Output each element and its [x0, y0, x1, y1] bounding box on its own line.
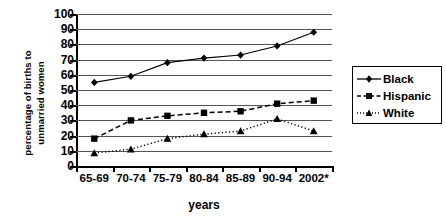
x-axis-tick [332, 166, 334, 172]
series-black [91, 29, 317, 86]
data-point [274, 100, 280, 106]
legend-item-black: Black [356, 70, 439, 87]
data-point [201, 110, 207, 116]
data-point [127, 73, 134, 80]
data-point [310, 127, 318, 134]
x-tick-label: 80-84 [189, 172, 218, 184]
data-point [164, 59, 171, 66]
data-point [127, 145, 135, 152]
x-tick-label: 75-79 [153, 172, 182, 184]
y-tick-label: 100 [40, 9, 74, 19]
y-tick-label: 70 [40, 55, 74, 65]
x-tick-label: 65-69 [80, 172, 109, 184]
y-tick-label: 90 [40, 24, 74, 34]
x-tick-label: 85-89 [226, 172, 255, 184]
data-point [90, 149, 98, 156]
y-tick-label: 60 [40, 70, 74, 80]
legend-key-white-icon [356, 106, 382, 120]
data-point [310, 29, 317, 36]
data-point [91, 79, 98, 86]
data-point [201, 54, 208, 61]
y-tick-label: 20 [40, 131, 74, 141]
chart-legend: Black Hispanic White [352, 66, 442, 124]
y-axis-title-line1: percentage of births to [21, 50, 34, 155]
plot-area [76, 14, 332, 166]
x-axis-tick-labels: 65-6970-7475-7980-8485-8990-942002* [76, 172, 332, 190]
y-tick-label: 0 [40, 161, 74, 171]
y-tick-label: 40 [40, 100, 74, 110]
y-tick-label: 30 [40, 115, 74, 125]
chart-figure: percentage of births to unmarried women … [0, 0, 446, 224]
data-point [91, 135, 97, 141]
x-axis-title: years [76, 198, 332, 212]
data-point [273, 115, 281, 122]
x-tick-label: 90-94 [262, 172, 291, 184]
legend-label-black: Black [383, 73, 414, 85]
data-point [237, 51, 244, 58]
data-point [237, 108, 243, 114]
data-point [311, 97, 317, 103]
data-point [164, 135, 172, 142]
legend-item-white: White [356, 104, 439, 121]
data-point [237, 127, 245, 134]
y-tick-label: 10 [40, 146, 74, 156]
data-point [274, 42, 281, 49]
x-tick-label: 2002* [299, 172, 329, 184]
y-axis-tick-labels: 0102030405060708090100 [38, 0, 74, 224]
series-white [90, 115, 317, 156]
data-series-layer [76, 14, 332, 166]
legend-key-black-icon [356, 72, 382, 86]
x-tick-label: 70-74 [116, 172, 145, 184]
y-tick-label: 80 [40, 39, 74, 49]
data-point [128, 117, 134, 123]
legend-item-hispanic: Hispanic [356, 87, 439, 104]
legend-label-white: White [383, 107, 414, 119]
legend-key-hispanic-icon [356, 89, 382, 103]
data-point [164, 113, 170, 119]
legend-label-hispanic: Hispanic [383, 90, 431, 102]
y-tick-label: 50 [40, 85, 74, 95]
